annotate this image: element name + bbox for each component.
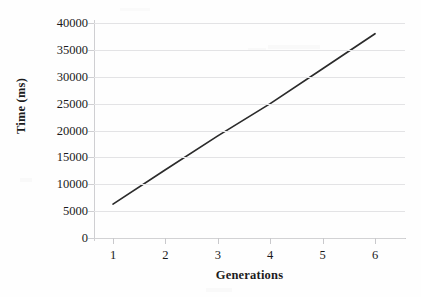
gridline-y-15000 [94,157,405,158]
x-axis-tick-labels: 123456 [94,248,405,266]
gridline-y-40000 [94,23,405,24]
y-tick-label-0: 0 [36,231,88,246]
gridline-y-10000 [94,184,405,185]
y-tick-label-30000: 30000 [36,69,88,84]
y-tick-label-35000: 35000 [36,42,88,57]
scan-artifact [120,8,150,11]
x-tick-label-2: 2 [150,248,180,263]
y-tick-label-15000: 15000 [36,150,88,165]
x-tick-mark-1 [113,238,114,244]
x-tick-mark-5 [323,238,324,244]
x-tick-mark-3 [218,238,219,244]
x-tick-label-3: 3 [203,248,233,263]
gridline-y-5000 [94,211,405,212]
line-chart-figure: Time (ms) 050001000015000200002500030000… [0,0,421,297]
y-axis-title: Time (ms) [14,66,34,146]
y-tick-label-10000: 10000 [36,177,88,192]
gridline-y-0 [94,238,405,239]
y-tick-mark-10000 [88,184,94,185]
gridline-y-35000 [94,50,405,51]
y-tick-mark-25000 [88,104,94,105]
gridline-y-20000 [94,131,405,132]
scan-artifact [206,288,232,292]
y-tick-mark-20000 [88,131,94,132]
y-tick-mark-15000 [88,157,94,158]
y-tick-mark-35000 [88,50,94,51]
y-tick-label-5000: 5000 [36,204,88,219]
y-tick-mark-5000 [88,211,94,212]
y-tick-mark-30000 [88,77,94,78]
y-tick-label-25000: 25000 [36,96,88,111]
plot-area [94,23,405,238]
gridline-y-30000 [94,77,405,78]
y-tick-label-20000: 20000 [36,123,88,138]
gridline-y-25000 [94,104,405,105]
y-tick-label-40000: 40000 [36,16,88,31]
x-tick-mark-6 [375,238,376,244]
y-axis-tick-labels: 0500010000150002000025000300003500040000 [36,23,88,238]
x-tick-label-4: 4 [255,248,285,263]
y-tick-mark-0 [88,238,94,239]
x-axis-title: Generations [94,268,405,283]
x-tick-label-1: 1 [98,248,128,263]
y-tick-mark-40000 [88,23,94,24]
x-tick-label-5: 5 [308,248,338,263]
scan-artifact [20,178,32,182]
x-tick-mark-4 [270,238,271,244]
x-tick-mark-2 [165,238,166,244]
x-tick-label-6: 6 [360,248,390,263]
